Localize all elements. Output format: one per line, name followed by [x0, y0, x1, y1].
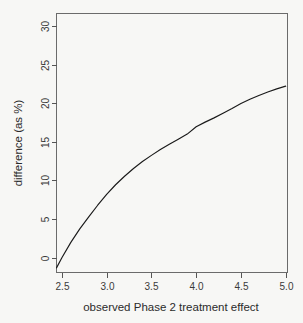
- y-axis-ticks: [52, 27, 57, 259]
- x-tick-label: 3.0: [101, 281, 115, 292]
- y-axis-title: difference (as %): [12, 99, 24, 186]
- x-tick-label: 4.5: [235, 281, 249, 292]
- y-tick-label: 5: [40, 216, 51, 222]
- y-tick-label: 30: [40, 21, 51, 33]
- x-tick-label: 5.0: [280, 281, 294, 292]
- x-tick-label: 4.0: [190, 281, 204, 292]
- y-tick-label: 10: [40, 175, 51, 187]
- data-series-line: [57, 86, 286, 268]
- y-tick-label: 25: [40, 60, 51, 72]
- x-axis-title: observed Phase 2 treatment effect: [83, 301, 259, 313]
- x-axis-tick-labels: 2.53.03.54.04.55.0: [56, 281, 294, 292]
- x-axis-ticks: [63, 273, 287, 278]
- x-tick-label: 2.5: [56, 281, 70, 292]
- x-tick-label: 3.5: [145, 281, 159, 292]
- y-tick-label: 20: [40, 98, 51, 110]
- y-tick-label: 0: [40, 255, 51, 261]
- chart-canvas: 2.53.03.54.04.55.0 051015202530 observed…: [0, 0, 303, 323]
- chart-figure: 2.53.03.54.04.55.0 051015202530 observed…: [0, 0, 303, 323]
- y-tick-label: 15: [40, 137, 51, 149]
- y-axis-tick-labels: 051015202530: [40, 21, 51, 262]
- difference-curve: [57, 86, 286, 268]
